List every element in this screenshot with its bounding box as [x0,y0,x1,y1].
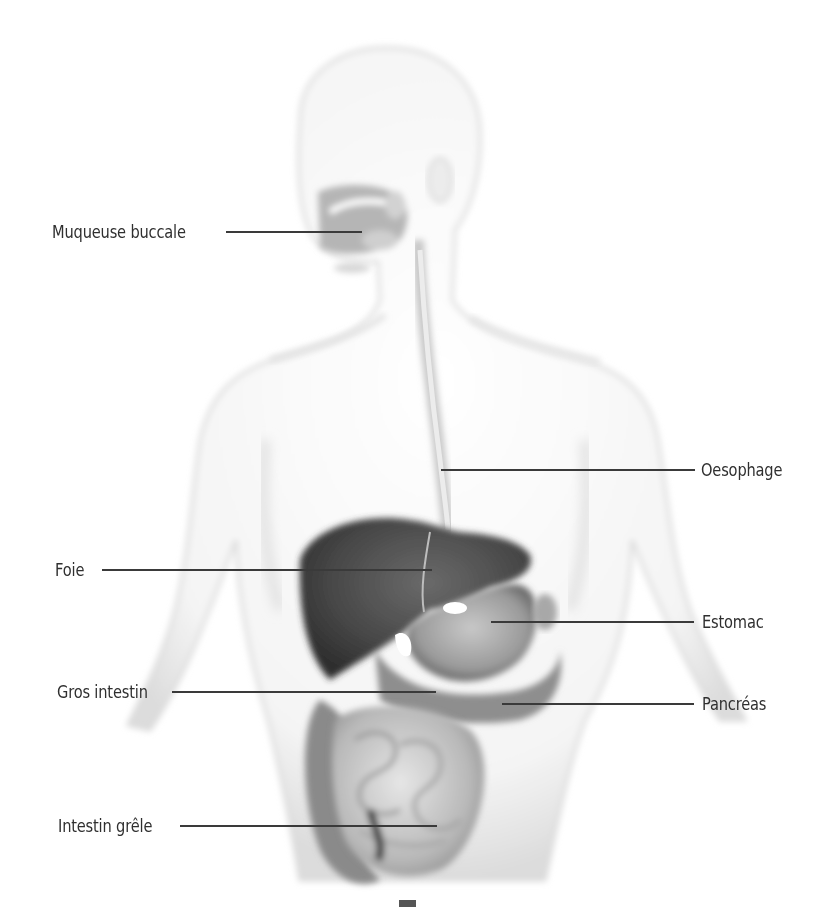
label-text-foie: Foie [55,560,84,580]
label-text-intestin-grele: Intestin grêle [58,816,152,836]
leader-line-foie [102,569,432,571]
page-marker [399,900,416,907]
label-text-muqueuse-buccale: Muqueuse buccale [52,222,186,242]
label-text-pancreas: Pancréas [702,694,766,714]
label-text-oesophage: Oesophage [701,460,782,480]
leader-line-gros-intestin [172,691,436,693]
human-body-illustration [0,0,839,907]
leader-line-pancreas [502,703,694,705]
label-text-gros-intestin: Gros intestin [57,682,148,702]
leader-line-muqueuse-buccale [226,231,362,233]
leader-line-oesophage [441,469,695,471]
leader-line-intestin-grele [180,825,437,827]
leader-line-estomac [491,621,694,623]
label-text-estomac: Estomac [702,612,764,632]
